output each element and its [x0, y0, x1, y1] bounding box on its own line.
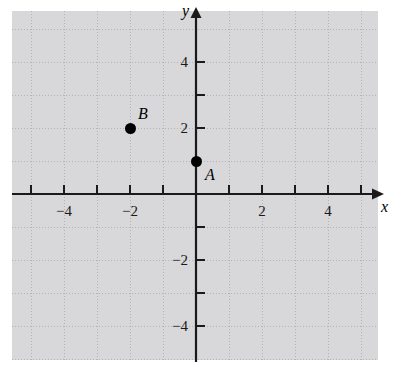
point-label-a: A	[205, 167, 215, 183]
y-axis-arrowhead	[191, 7, 202, 18]
x-axis-tick-label: 2	[252, 204, 272, 219]
x-axis-label: x	[381, 199, 388, 215]
y-axis-tick-label: −2	[160, 253, 188, 268]
plotted-point-b[interactable]	[125, 123, 136, 134]
plotted-point-a[interactable]	[191, 156, 202, 167]
y-axis-tick-label: 2	[160, 121, 188, 136]
y-axis-group	[191, 7, 202, 362]
y-axis-tick-label: 4	[160, 55, 188, 70]
y-axis-label: y	[182, 3, 189, 19]
x-axis-tick-label: −2	[120, 204, 140, 219]
y-axis-tick-label: −4	[160, 319, 188, 334]
x-axis-tick-label: 4	[318, 204, 338, 219]
point-label-b: B	[138, 106, 148, 122]
x-axis-tick-label: −4	[54, 204, 74, 219]
coordinate-plane-figure: x y −4−22442−2−4 AB	[0, 0, 394, 369]
axes-svg	[0, 0, 394, 369]
